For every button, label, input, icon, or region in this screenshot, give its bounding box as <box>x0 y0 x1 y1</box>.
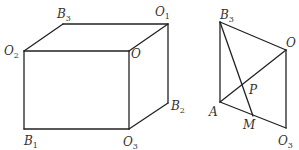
cuboid-figure: O2B3O1OB2B1O3 <box>4 5 185 150</box>
edge-b3-o <box>220 22 286 50</box>
vertex-label-o: O <box>131 47 141 61</box>
vertex-label-o3: O3 <box>123 135 138 150</box>
vertex-label-b1: B1 <box>23 134 38 150</box>
vertex-label-o: O <box>286 36 296 50</box>
vertex-label-b3: B3 <box>56 7 71 23</box>
vertex-label-o2: O2 <box>4 44 19 60</box>
vertex-label-m: M <box>242 118 256 132</box>
section-figure: B3OPAMO3 <box>208 8 296 150</box>
geometry-diagram: O2B3O1OB2B1O3 B3OPAMO3 <box>0 0 299 150</box>
vertex-label-b2: B2 <box>170 99 185 115</box>
vertex-label-b3: B3 <box>219 8 234 24</box>
vertex-label-o1: O1 <box>155 5 170 21</box>
edge-o2-b3 <box>24 24 63 51</box>
edge-b2-o3 <box>129 103 168 129</box>
vertex-label-p: P <box>248 83 258 97</box>
vertex-label-o3: O3 <box>278 134 293 150</box>
edge-b3-m <box>220 22 253 116</box>
vertex-label-a: A <box>208 105 218 119</box>
